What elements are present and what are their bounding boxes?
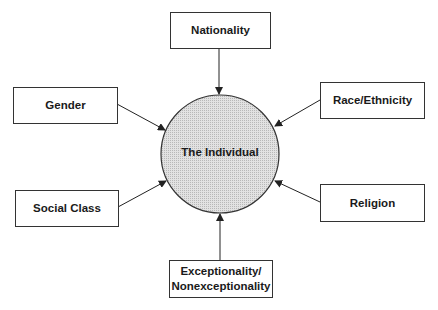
individual-label: The Individual bbox=[160, 146, 280, 158]
factor-label: Race/Ethnicity bbox=[333, 93, 412, 108]
factor-label: Religion bbox=[350, 196, 395, 211]
arrow-gender bbox=[117, 104, 165, 130]
factor-social-class: Social Class bbox=[15, 190, 119, 227]
arrow-social-class bbox=[118, 181, 166, 207]
factor-label: Nationality bbox=[191, 23, 250, 38]
factor-label: Gender bbox=[45, 98, 85, 113]
arrow-race bbox=[275, 100, 320, 126]
factor-label: Social Class bbox=[33, 201, 101, 216]
factor-exceptionality: Exceptionality/ Nonexceptionality bbox=[169, 260, 273, 298]
factor-race-ethnicity: Race/Ethnicity bbox=[320, 82, 425, 119]
factor-label: Exceptionality/ Nonexceptionality bbox=[171, 264, 270, 294]
factor-religion: Religion bbox=[320, 184, 425, 222]
arrow-religion bbox=[275, 181, 320, 202]
factor-gender: Gender bbox=[13, 87, 118, 124]
factor-nationality: Nationality bbox=[170, 12, 271, 49]
